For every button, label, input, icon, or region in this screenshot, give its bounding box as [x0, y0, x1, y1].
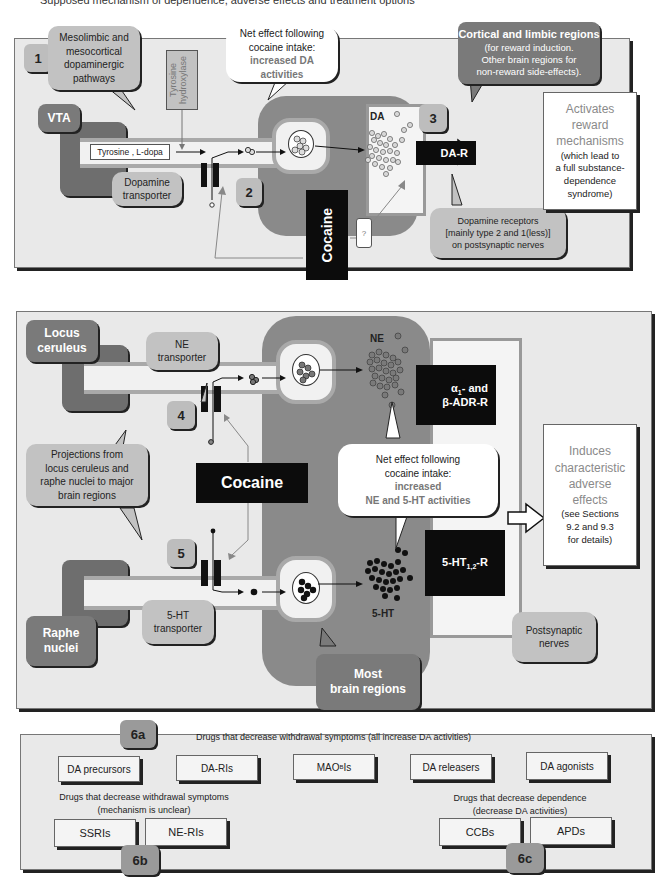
drug-ne-ris: NE-RIs: [145, 818, 227, 846]
drug-ccbs: CCBs: [439, 818, 521, 846]
step-badge-5: 5: [167, 539, 195, 567]
ne-transporter-callout: NE transporter: [146, 332, 218, 370]
projections-callout: Projections from locus ceruleus and raph…: [26, 444, 148, 506]
ne-label: NE: [370, 333, 384, 344]
postsynaptic-nerves-callout: Postsynaptic nerves: [512, 612, 596, 662]
most-brain-regions-label: Most brain regions: [316, 654, 420, 710]
heading-6b: Drugs that decrease withdrawal symptoms …: [56, 791, 232, 816]
drug-ssris: SSRIs: [54, 819, 136, 847]
5ht-label: 5-HT: [372, 608, 394, 619]
raphe-nuclei-label: Raphe nuclei: [26, 616, 96, 666]
drug-da-ris: DA-RIs: [176, 755, 258, 781]
badge-6c: 6c: [506, 843, 544, 873]
cocaine-label-2: Cocaine: [196, 463, 308, 503]
net-effect-ne-5ht-callout: Net effect following cocaine intake: inc…: [338, 444, 498, 516]
heading-6a: Drugs that decrease withdrawal symptoms …: [196, 732, 471, 742]
adrenergic-receptor: α1- and β-ADR-R: [416, 365, 496, 425]
heading-6c: Drugs that decrease dependence (decrease…: [450, 792, 590, 817]
drug-maob-is: MAOBIs: [293, 754, 375, 780]
drug-da-releasers: DA releasers: [410, 754, 492, 780]
badge-6a: 6a: [120, 720, 156, 748]
drug-da-precursors: DA precursors: [58, 756, 140, 782]
drug-da-agonists: DA agonists: [526, 752, 608, 780]
serotonin-receptor: 5-HT1,2-R: [425, 530, 505, 596]
drug-apds: APDs: [530, 817, 612, 845]
step-badge-4: 4: [167, 401, 195, 429]
badge-6b: 6b: [121, 845, 159, 875]
adverse-effects-box: Induces characteristic adverse effects (…: [543, 424, 637, 566]
5ht-transporter-callout: 5-HT transporter: [142, 600, 214, 644]
locus-ceruleus-label: Locus ceruleus: [26, 320, 98, 362]
